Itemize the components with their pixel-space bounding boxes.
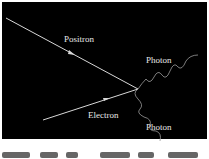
positron-arrow-icon — [68, 50, 75, 55]
electron-arrow-icon — [103, 98, 110, 101]
caption-cutoff — [0, 142, 209, 159]
photon-label-upper: Photon — [146, 55, 172, 65]
photon-wave-lower — [135, 89, 161, 141]
photon-label-lower: Photon — [146, 122, 172, 132]
feynman-diagram — [0, 0, 209, 159]
electron-label: Electron — [88, 110, 119, 120]
positron-label: Positron — [64, 34, 94, 44]
